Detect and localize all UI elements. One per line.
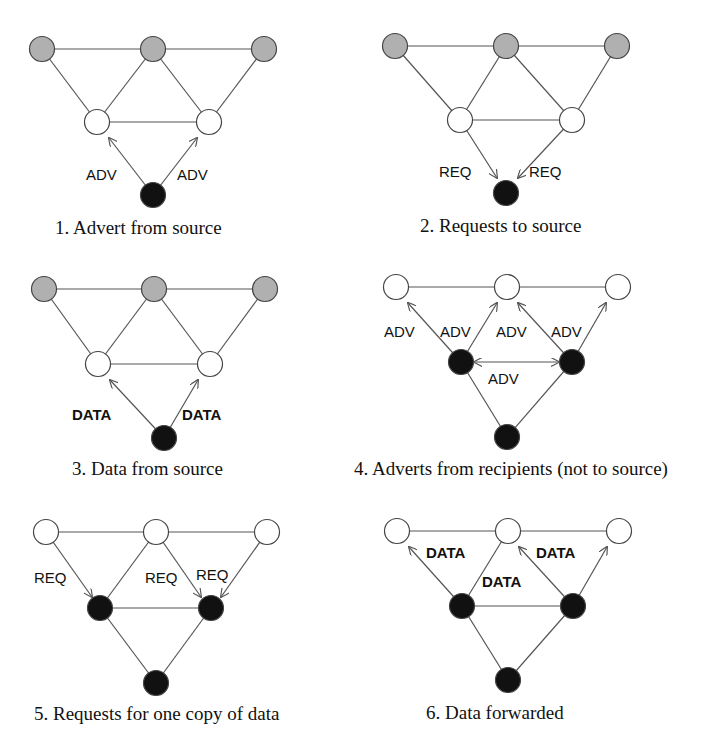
node-mid-right-white xyxy=(198,352,223,377)
panel-caption: 2. Requests to source xyxy=(420,215,581,236)
node-top-mid-white xyxy=(496,519,521,544)
node-source-black xyxy=(494,181,519,206)
node-top-right-grey xyxy=(605,34,630,59)
message-label: REQ xyxy=(34,569,67,586)
message-label: ADV xyxy=(86,166,117,183)
node-top-left-white xyxy=(34,520,59,545)
node-source-black xyxy=(496,668,521,693)
node-top-left-grey xyxy=(32,277,57,302)
node-source-black xyxy=(152,426,177,451)
message-label: REQ xyxy=(439,163,472,180)
node-mid-left-white xyxy=(86,352,111,377)
node-top-left-grey xyxy=(30,37,55,62)
message-label: ADV xyxy=(488,370,519,387)
node-top-mid-grey xyxy=(494,34,519,59)
node-top-mid-white xyxy=(144,520,169,545)
message-label: REQ xyxy=(196,566,229,583)
node-top-left-white xyxy=(384,275,409,300)
message-label: REQ xyxy=(529,163,562,180)
node-top-left-white xyxy=(385,519,410,544)
message-label: ADV xyxy=(496,323,527,340)
node-top-mid-grey xyxy=(142,277,167,302)
panel-caption: 5. Requests for one copy of data xyxy=(34,703,280,724)
node-mid-left-white xyxy=(85,110,110,135)
message-label: ADV xyxy=(177,166,208,183)
node-top-right-white xyxy=(606,275,631,300)
node-top-mid-white xyxy=(495,275,520,300)
node-mid-left-black xyxy=(450,594,475,619)
node-top-right-white xyxy=(607,519,632,544)
node-top-mid-grey xyxy=(141,37,166,62)
panel-caption: 3. Data from source xyxy=(72,458,223,479)
node-source-black xyxy=(144,671,169,696)
node-source-black xyxy=(141,183,166,208)
node-mid-right-black xyxy=(561,594,586,619)
node-top-right-grey xyxy=(252,37,277,62)
node-top-right-grey xyxy=(253,277,278,302)
node-top-right-white xyxy=(255,520,280,545)
node-mid-left-white xyxy=(448,108,473,133)
message-label: DATA xyxy=(482,573,522,590)
node-mid-left-black xyxy=(449,350,474,375)
node-mid-right-black xyxy=(560,350,585,375)
message-label: ADV xyxy=(551,323,582,340)
panel-caption: 1. Advert from source xyxy=(55,217,222,238)
panel-caption: 6. Data forwarded xyxy=(426,702,564,723)
node-top-left-grey xyxy=(383,34,408,59)
node-source-black xyxy=(495,425,520,450)
node-mid-right-white xyxy=(197,110,222,135)
message-label: ADV xyxy=(384,323,415,340)
message-label: REQ xyxy=(145,569,178,586)
message-label: ADV xyxy=(440,323,471,340)
node-mid-right-black xyxy=(199,596,224,621)
message-label: DATA xyxy=(182,406,222,423)
message-label: DATA xyxy=(536,544,576,561)
spin-protocol-diagram: ADV ADV 1. Advert from source REQ REQ 2.… xyxy=(0,0,709,737)
message-label: DATA xyxy=(72,406,112,423)
node-mid-right-white xyxy=(560,108,585,133)
panel-caption: 4. Adverts from recipients (not to sourc… xyxy=(354,458,668,480)
node-mid-left-black xyxy=(88,596,113,621)
message-label: DATA xyxy=(426,544,466,561)
